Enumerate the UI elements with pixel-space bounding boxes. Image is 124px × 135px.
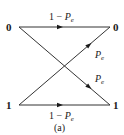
figure-caption: (a) [54, 122, 65, 134]
input-node-0: 0 [6, 21, 12, 33]
arrow-right-icon [57, 25, 63, 29]
edge-label-0-1: Pe [94, 73, 104, 86]
output-node-0: 0 [113, 21, 119, 33]
input-node-1: 1 [6, 99, 12, 111]
edge-label-1-0: Pe [94, 49, 104, 62]
bsc-diagram: 0 0 1 1 1 − Pe Pe Pe 1 − Pe (a) [0, 0, 124, 135]
arrow-right-icon [57, 103, 63, 107]
output-node-1: 1 [113, 99, 119, 111]
edge-label-0-0: 1 − Pe [49, 11, 74, 24]
